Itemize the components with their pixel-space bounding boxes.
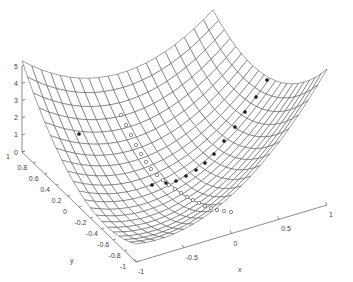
y-tick — [125, 250, 128, 251]
y-tick-label: -1 — [120, 263, 126, 270]
open-marker — [124, 123, 127, 126]
open-marker — [197, 201, 200, 204]
open-marker — [167, 183, 170, 186]
surface-plot: 012345-1-0.8-0.6-0.4-0.200.20.40.60.81-1… — [0, 0, 353, 282]
z-tick-label: 1 — [14, 131, 18, 138]
y-tick — [79, 206, 82, 207]
filled-marker — [243, 110, 246, 113]
open-marker — [139, 152, 142, 155]
filled-marker — [265, 78, 268, 81]
z-tick-label: 0 — [14, 149, 18, 156]
filled-marker — [254, 95, 257, 98]
z-tick-label: 4 — [14, 80, 18, 87]
y-tick-label: 0.6 — [29, 175, 39, 182]
x-tick-label: 0 — [234, 240, 238, 247]
filled-marker — [194, 168, 197, 171]
y-axis-label: y — [70, 257, 74, 265]
y-tick — [45, 173, 48, 174]
open-marker — [161, 178, 164, 181]
filled-marker — [233, 125, 236, 128]
open-marker — [203, 204, 206, 207]
y-tick-label: 0.8 — [17, 164, 27, 171]
y-tick-label: -0.8 — [109, 252, 121, 259]
y-tick-label: 1 — [6, 153, 10, 160]
filled-marker — [222, 139, 225, 142]
filled-marker — [77, 132, 80, 135]
x-tick — [230, 231, 232, 234]
z-tick — [22, 99, 25, 100]
open-marker — [179, 191, 182, 194]
y-tick — [90, 217, 93, 218]
y-tick — [102, 228, 105, 229]
y-tick — [56, 184, 59, 185]
open-marker — [173, 187, 176, 190]
surface-plot-figure: 012345-1-0.8-0.6-0.4-0.200.20.40.60.81-1… — [0, 0, 353, 282]
x-tick-label: -1 — [138, 268, 144, 275]
z-tick — [22, 117, 25, 118]
y-tick-label: -0.2 — [74, 219, 86, 226]
filled-marker — [174, 179, 177, 182]
open-marker — [215, 208, 218, 211]
filled-marker — [212, 152, 215, 155]
z-tick-label: 2 — [14, 114, 18, 121]
open-marker — [134, 143, 137, 146]
open-marker — [155, 173, 158, 176]
y-tick — [113, 239, 116, 240]
mesh-surface — [22, 10, 327, 244]
y-tick-label: -0.4 — [86, 230, 98, 237]
x-tick — [278, 216, 280, 219]
x-tick — [182, 245, 184, 248]
open-marker — [191, 198, 194, 201]
x-axis-label: x — [238, 266, 242, 273]
y-tick-label: -0.6 — [97, 241, 109, 248]
x-tick-label: 0.5 — [281, 225, 291, 232]
z-tick-label: 3 — [14, 97, 18, 104]
z-tick — [22, 134, 25, 135]
y-tick-label: 0 — [63, 208, 67, 215]
z-tick-label: 5 — [14, 63, 18, 70]
open-marker — [144, 160, 147, 163]
open-marker — [149, 167, 152, 170]
open-marker — [222, 209, 225, 212]
y-tick-label: 0.4 — [40, 186, 50, 193]
y-tick — [33, 162, 36, 163]
open-marker — [185, 195, 188, 198]
filled-marker — [203, 161, 206, 164]
filled-marker — [164, 181, 167, 184]
x-tick-label: 1 — [329, 211, 333, 218]
y-tick — [68, 195, 71, 196]
y-tick-label: 0.2 — [52, 197, 62, 204]
filled-marker — [184, 174, 187, 177]
x-tick-label: -0.5 — [186, 254, 198, 261]
open-marker — [229, 210, 232, 213]
open-marker — [119, 113, 122, 116]
filled-marker — [150, 183, 153, 186]
x-tick — [326, 202, 328, 205]
z-tick — [22, 82, 25, 83]
open-marker — [129, 133, 132, 136]
open-marker — [209, 206, 212, 209]
